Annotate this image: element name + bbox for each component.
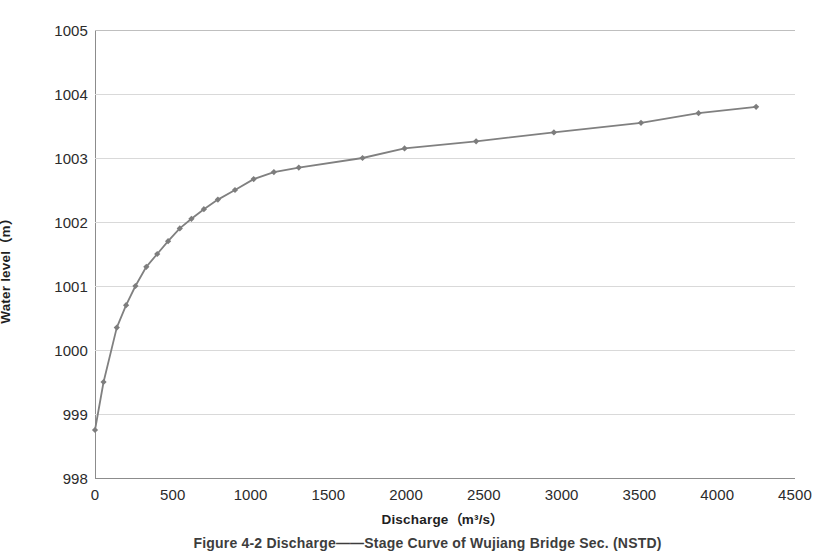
- plot-area: [95, 30, 795, 478]
- gridline-y-1005: [95, 30, 795, 31]
- gridline-y-1002: [95, 222, 795, 223]
- y-tick-1004: 1004: [8, 87, 88, 102]
- gridline-y-1001: [95, 286, 795, 287]
- y-axis-title: Water level（m）: [0, 168, 14, 368]
- x-axis-title: Discharge（m³/s）: [0, 508, 825, 528]
- figure-caption: Figure 4-2 Discharge——Stage Curve of Wuj…: [0, 535, 825, 551]
- x-tick-3500: 3500: [599, 487, 679, 502]
- x-axis-line: [95, 478, 795, 479]
- gridline-y-1000: [95, 350, 795, 351]
- x-tick-1000: 1000: [211, 487, 291, 502]
- gridline-y-999: [95, 414, 795, 415]
- gridline-y-1003: [95, 158, 795, 159]
- y-tick-999: 999: [8, 407, 88, 422]
- x-tick-1500: 1500: [288, 487, 368, 502]
- y-tick-1003: 1003: [8, 151, 88, 166]
- y-tick-1000: 1000: [8, 343, 88, 358]
- x-tick-2500: 2500: [444, 487, 524, 502]
- y-tick-1002: 1002: [8, 215, 88, 230]
- x-tick-4500: 4500: [755, 487, 825, 502]
- y-tick-1005: 1005: [8, 23, 88, 38]
- x-tick-4000: 4000: [677, 487, 757, 502]
- gridline-y-1004: [95, 94, 795, 95]
- x-tick-2000: 2000: [366, 487, 446, 502]
- y-tick-998: 998: [8, 471, 88, 486]
- y-tick-1001: 1001: [8, 279, 88, 294]
- x-tick-0: 0: [55, 487, 135, 502]
- x-tick-500: 500: [133, 487, 213, 502]
- x-tick-3000: 3000: [522, 487, 602, 502]
- y-axis-line: [95, 30, 96, 478]
